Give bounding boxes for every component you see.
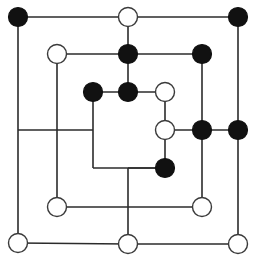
graph-node-bottom-left-corner[interactable] <box>9 234 28 253</box>
graph-node-top-left-corner[interactable] <box>9 8 28 27</box>
graph-node-bottom-center[interactable] <box>119 235 138 254</box>
graph-node-row2-right[interactable] <box>193 45 212 64</box>
graph-node-row4-right[interactable] <box>193 121 212 140</box>
graph-node-row4-far-right[interactable] <box>229 121 248 140</box>
graph-node-row3-center[interactable] <box>119 83 138 102</box>
graph-node-bottom-right-corner[interactable] <box>229 235 248 254</box>
graph-node-row4-inner[interactable] <box>156 121 175 140</box>
graph-node-row3-left[interactable] <box>84 83 103 102</box>
graph-node-top-center[interactable] <box>119 8 138 27</box>
graph-node-row2-center[interactable] <box>119 45 138 64</box>
graph-node-row2-left[interactable] <box>48 45 67 64</box>
graph-edge-bottom-left-to-bottom-center <box>18 243 128 244</box>
graph-node-row3-right[interactable] <box>156 83 175 102</box>
graph-node-row6-left[interactable] <box>48 198 67 217</box>
graph-node-row6-right[interactable] <box>193 198 212 217</box>
diagram-canvas <box>0 0 259 265</box>
graph-node-row5-center[interactable] <box>156 159 175 178</box>
graph-node-top-right-corner[interactable] <box>229 8 248 27</box>
graph-svg <box>0 0 259 265</box>
